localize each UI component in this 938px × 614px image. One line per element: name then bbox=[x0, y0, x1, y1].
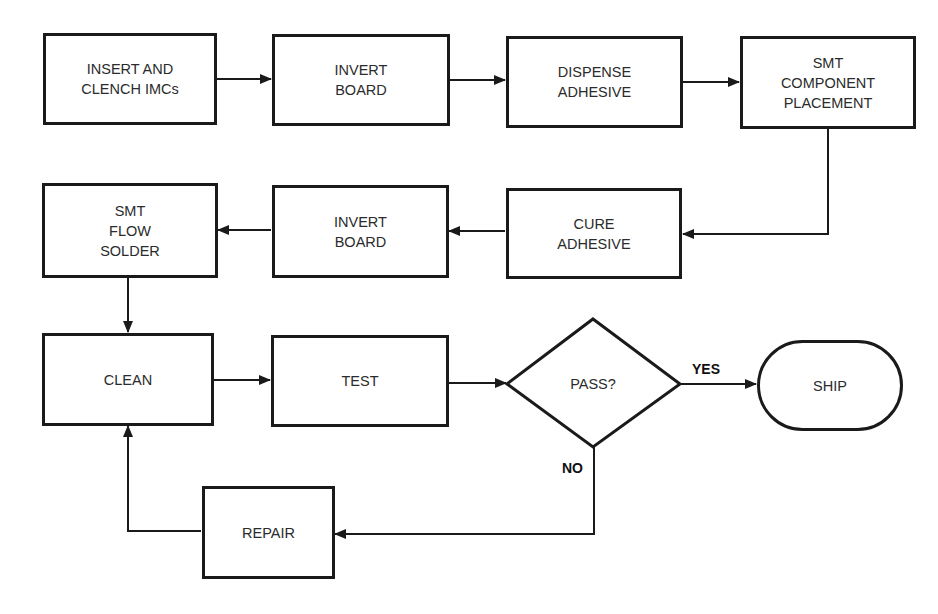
step-label: CURE ADHESIVE bbox=[557, 214, 630, 254]
step-smt-component-placement: SMT COMPONENT PLACEMENT bbox=[740, 36, 916, 129]
step-clean: CLEAN bbox=[42, 333, 214, 426]
edge-label-yes: YES bbox=[692, 361, 720, 377]
terminal-label: SHIP bbox=[813, 376, 847, 396]
step-label: SMT FLOW SOLDER bbox=[100, 201, 160, 261]
step-label: REPAIR bbox=[242, 523, 295, 543]
step-invert-board-2: INVERT BOARD bbox=[272, 185, 449, 278]
step-label: INVERT BOARD bbox=[335, 60, 388, 100]
step-repair: REPAIR bbox=[202, 486, 335, 579]
edge-label-no: NO bbox=[562, 460, 583, 476]
step-label: TEST bbox=[341, 371, 378, 391]
step-invert-board-1: INVERT BOARD bbox=[272, 34, 450, 126]
step-label: INVERT BOARD bbox=[334, 212, 387, 252]
step-label: SMT COMPONENT PLACEMENT bbox=[781, 53, 875, 113]
step-label: CLEAN bbox=[104, 370, 152, 390]
edge-pass-to-repair bbox=[335, 447, 594, 534]
step-label: DISPENSE ADHESIVE bbox=[558, 62, 631, 102]
step-dispense-adhesive: DISPENSE ADHESIVE bbox=[506, 36, 683, 128]
decision-pass-label: PASS? bbox=[570, 376, 616, 392]
step-smt-flow-solder: SMT FLOW SOLDER bbox=[42, 183, 218, 278]
step-label: INSERT AND CLENCH IMCs bbox=[81, 59, 178, 99]
terminal-ship: SHIP bbox=[757, 340, 903, 431]
edge-repair-to-clean bbox=[128, 426, 201, 531]
step-cure-adhesive: CURE ADHESIVE bbox=[506, 188, 682, 279]
step-insert-and-clench-imcs: INSERT AND CLENCH IMCs bbox=[43, 33, 217, 125]
edge-placement-to-cure bbox=[683, 129, 828, 234]
step-test: TEST bbox=[271, 335, 449, 427]
